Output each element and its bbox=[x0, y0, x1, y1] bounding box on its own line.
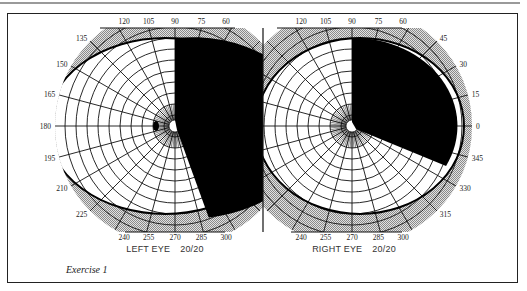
angle-tick-label: 30 bbox=[459, 60, 467, 69]
angle-tick-label: 285 bbox=[196, 233, 208, 242]
angle-tick-label: 210 bbox=[56, 184, 68, 193]
angle-tick-label: 330 bbox=[459, 184, 471, 193]
angle-tick-label: 240 bbox=[118, 233, 130, 242]
angle-tick-label: 180 bbox=[40, 122, 52, 131]
angle-tick-label: 300 bbox=[397, 233, 409, 242]
angle-tick-label: 0 bbox=[476, 122, 480, 131]
angle-tick-label: 255 bbox=[143, 233, 155, 242]
figure-caption: Exercise 1 bbox=[66, 264, 108, 275]
angle-tick-label: 270 bbox=[169, 233, 181, 242]
angle-tick-label: 75 bbox=[198, 17, 206, 26]
visual-fields-svg: 1201059075601351501651801952102252402552… bbox=[0, 0, 527, 291]
angle-tick-label: 195 bbox=[44, 154, 56, 163]
angle-tick-label: 120 bbox=[118, 17, 130, 26]
angle-tick-label: 165 bbox=[44, 90, 56, 99]
blind-spot bbox=[153, 121, 159, 131]
angle-tick-label: 315 bbox=[440, 210, 452, 219]
angle-tick-label: 15 bbox=[472, 90, 480, 99]
angle-tick-label: 225 bbox=[76, 210, 88, 219]
angle-tick-label: 270 bbox=[346, 233, 358, 242]
angle-tick-label: 45 bbox=[440, 34, 448, 43]
angle-tick-label: 90 bbox=[171, 17, 179, 26]
angle-tick-label: 75 bbox=[375, 17, 383, 26]
angle-tick-label: 60 bbox=[399, 17, 407, 26]
angle-tick-label: 255 bbox=[320, 233, 332, 242]
angle-tick-label: 345 bbox=[472, 154, 484, 163]
left-eye-label: LEFT EYE20/20 bbox=[126, 244, 203, 254]
angle-tick-label: 240 bbox=[295, 233, 307, 242]
right-eye-field: 1201059075604530150345330315240255270285… bbox=[227, 2, 483, 250]
angle-tick-label: 120 bbox=[295, 17, 307, 26]
angle-tick-label: 90 bbox=[348, 17, 356, 26]
angle-tick-label: 300 bbox=[220, 233, 232, 242]
angle-tick-label: 60 bbox=[222, 17, 230, 26]
angle-tick-label: 285 bbox=[373, 233, 385, 242]
angle-tick-label: 150 bbox=[56, 60, 68, 69]
angle-tick-label: 105 bbox=[320, 17, 332, 26]
angle-tick-label: 135 bbox=[76, 34, 88, 43]
right-eye-label: RIGHT EYE20/20 bbox=[312, 244, 396, 254]
angle-tick-label: 105 bbox=[143, 17, 155, 26]
